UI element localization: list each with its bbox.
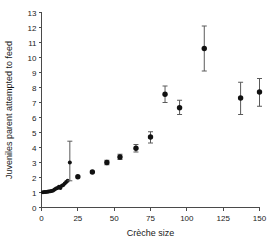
data-point-marker [68, 161, 72, 165]
x-axis-title: Crèche size [127, 228, 175, 238]
data-point-marker [90, 169, 95, 174]
data-point-marker [104, 160, 109, 165]
y-tick-label: 11 [28, 39, 37, 48]
scatter-plot: 0123456789101112130255075100125150Crèche… [0, 0, 273, 244]
y-tick-label: 4 [32, 144, 37, 153]
y-tick-label: 8 [32, 84, 37, 93]
y-tick-label: 5 [32, 129, 37, 138]
y-tick-label: 0 [32, 204, 37, 213]
data-point-marker [133, 146, 138, 151]
y-tick-label: 9 [32, 69, 37, 78]
y-tick-label: 2 [32, 174, 37, 183]
y-tick-label: 3 [32, 159, 37, 168]
figure-container: 0123456789101112130255075100125150Crèche… [0, 0, 273, 244]
y-tick-label: 1 [32, 189, 37, 198]
x-tick-label: 150 [253, 214, 267, 223]
x-tick-label: 50 [110, 214, 119, 223]
data-point-marker [238, 95, 243, 100]
data-point-marker [257, 89, 262, 94]
data-point-marker [117, 154, 122, 159]
y-axis-title: Juveniles parent attempted to feed [4, 41, 14, 179]
data-point-marker [162, 92, 167, 97]
y-tick-label: 7 [32, 99, 37, 108]
y-tick-label: 13 [28, 9, 37, 18]
y-tick-label: 12 [28, 24, 37, 33]
data-point-marker [202, 46, 207, 51]
x-tick-label: 25 [73, 214, 82, 223]
data-point-marker [75, 174, 80, 179]
x-tick-label: 75 [146, 214, 155, 223]
data-point-marker [148, 134, 153, 139]
y-tick-label: 10 [28, 54, 37, 63]
data-point-marker [177, 105, 182, 110]
x-tick-label: 100 [180, 214, 194, 223]
x-tick-label: 125 [216, 214, 230, 223]
y-tick-label: 6 [32, 114, 37, 123]
x-tick-label: 0 [39, 214, 44, 223]
